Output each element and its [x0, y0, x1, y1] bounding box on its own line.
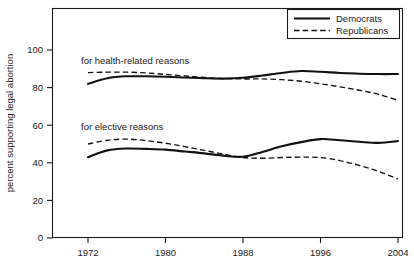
- x-axis: 1972 1980 1988 1996 2004: [77, 238, 408, 259]
- y-tick-label: 40: [32, 157, 43, 168]
- y-tick-label: 80: [32, 82, 43, 93]
- annotation-elective: for elective reasons: [81, 121, 164, 132]
- y-tick-label: 100: [27, 44, 43, 55]
- x-tick-label: 2004: [387, 247, 408, 258]
- y-tick-label: 60: [32, 120, 43, 131]
- y-axis: 0 20 40 60 80 100: [27, 44, 52, 243]
- y-axis-title: percent supporting legal abortion: [4, 54, 15, 192]
- x-tick-label: 1980: [155, 247, 176, 258]
- x-tick-label: 1988: [232, 247, 253, 258]
- legend: Democrats Republicans: [288, 10, 400, 39]
- chart-figure: 0 20 40 60 80 100 percent supporting leg…: [0, 0, 414, 279]
- legend-label-democrats: Democrats: [336, 13, 382, 24]
- line-chart: 0 20 40 60 80 100 percent supporting leg…: [0, 0, 414, 279]
- x-tick-label: 1996: [310, 247, 331, 258]
- y-tick-label: 20: [32, 195, 43, 206]
- x-tick-label: 1972: [77, 247, 98, 258]
- y-tick-label: 0: [38, 232, 43, 243]
- legend-label-republicans: Republicans: [336, 25, 389, 36]
- annotation-health-related: for health-related reasons: [81, 55, 190, 66]
